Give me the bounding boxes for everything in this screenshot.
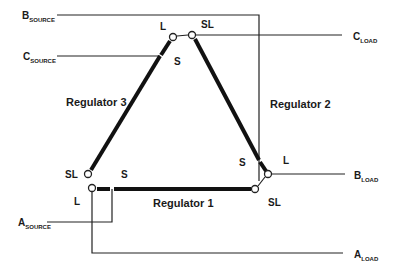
top-node-link — [177, 35, 188, 36]
top-l-node — [170, 34, 177, 41]
a-load-wire — [92, 192, 343, 253]
bottom-left-l-pin-label: L — [74, 196, 80, 207]
regulator-2-winding — [195, 39, 259, 160]
top-l-pin-label: L — [160, 21, 166, 32]
regulator-3-series-segment — [161, 41, 170, 55]
b-source-label: BSOURCE — [22, 10, 55, 23]
bottom-left-l-node — [89, 185, 96, 192]
bottom-left-s-pin-label: S — [121, 169, 128, 180]
b-load-label: BLOAD — [354, 170, 379, 183]
regulator-2-series-segment — [260, 162, 266, 171]
bottom-right-l-pin-label: L — [283, 155, 289, 166]
bottom-right-l-node — [265, 171, 272, 178]
regulator-delta-diagram: BSOURCE CSOURCE ASOURCE CLOAD BLOAD ALOA… — [0, 0, 401, 273]
a-source-label: ASOURCE — [18, 217, 51, 230]
pin-labels: L SL S SL S L S L SL — [65, 19, 289, 208]
bottom-right-s-pin-label: S — [239, 157, 246, 168]
top-sl-pin-label: SL — [201, 19, 214, 30]
regulator-3-winding — [91, 56, 160, 170]
bottom-left-sl-pin-label: SL — [65, 169, 78, 180]
bottom-right-sl-node — [252, 186, 259, 193]
a-load-label: ALOAD — [354, 249, 379, 262]
c-source-label: CSOURCE — [23, 51, 56, 64]
top-sl-node — [189, 32, 196, 39]
regulator-2-label: Regulator 2 — [270, 98, 331, 110]
regulator-labels: Regulator 3 Regulator 2 Regulator 1 — [66, 96, 331, 209]
top-s-pin-label: S — [174, 56, 181, 67]
wiring — [47, 15, 345, 253]
bottom-right-sl-pin-label: SL — [268, 197, 281, 208]
regulator-1-label: Regulator 1 — [153, 197, 214, 209]
bottom-left-sl-node — [85, 171, 92, 178]
regulator-3-label: Regulator 3 — [66, 96, 127, 108]
c-load-label: CLOAD — [353, 31, 378, 44]
